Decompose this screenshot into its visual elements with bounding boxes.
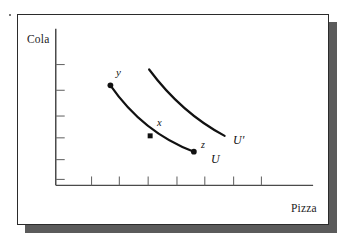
data-point-y bbox=[108, 82, 114, 88]
curve-label-u: U bbox=[211, 152, 220, 167]
curve-label-u-prime: U′ bbox=[233, 133, 244, 148]
plot-svg bbox=[18, 15, 328, 224]
x-axis-ticks bbox=[92, 176, 262, 185]
point-label-x: x bbox=[157, 117, 162, 128]
y-axis-ticks bbox=[56, 65, 65, 180]
figure-panel bbox=[17, 14, 329, 225]
data-point-z bbox=[191, 149, 197, 155]
figure-stage: Cola Pizza y x z U U′ bbox=[0, 0, 351, 249]
data-point-x bbox=[148, 133, 153, 138]
margin-notes bbox=[342, 178, 351, 240]
point-label-y: y bbox=[116, 66, 121, 78]
point-label-z: z bbox=[201, 139, 205, 150]
indifference-curve-plot bbox=[18, 15, 328, 224]
registration-dot-icon bbox=[9, 14, 11, 16]
x-axis-title: Pizza bbox=[291, 202, 317, 214]
indifference-curve-u bbox=[110, 85, 193, 151]
y-axis-title: Cola bbox=[27, 33, 50, 45]
